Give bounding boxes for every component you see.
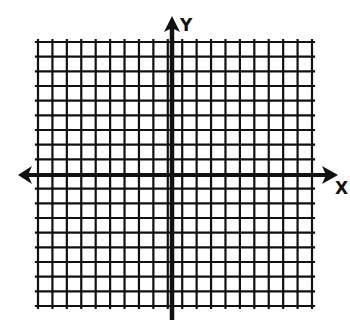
coordinate-plane xyxy=(0,0,350,323)
x-axis-label: X xyxy=(335,180,348,197)
y-axis-label: Y xyxy=(180,17,192,34)
